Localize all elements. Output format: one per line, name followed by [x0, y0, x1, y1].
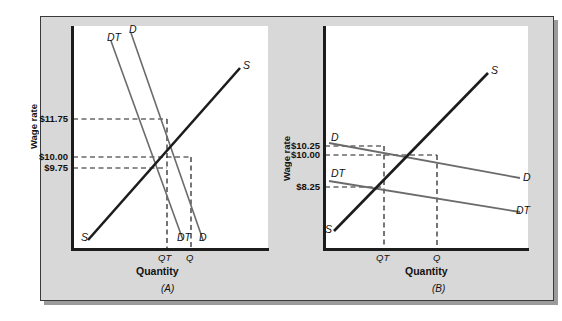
figure-container: Wage rate $11.75 $10.00 $9.75 D DT S S D… — [0, 0, 562, 321]
panel-b-x-axis-label: Quantity — [405, 265, 448, 277]
panel-b-guide-lines — [325, 146, 437, 249]
panel-b-dt-left-label: DT — [331, 167, 345, 179]
panel-b-xtick-qt: QT — [376, 252, 389, 263]
panel-b-s-end-label: S — [491, 64, 498, 76]
panel-b-caption: (B) — [432, 283, 445, 294]
panel-b-xtick-q: Q — [433, 252, 440, 263]
panel-b-ytick-1000: $10.00 — [272, 149, 320, 160]
panel-b-s-curve — [334, 73, 488, 231]
panel-b-ytick-825: $8.25 — [272, 181, 320, 192]
panel-b-s-start-label: S — [325, 223, 332, 235]
panel-b-dt-right-label: DT — [516, 204, 530, 216]
panel-b-d-right-label: D — [523, 171, 531, 183]
panel-b-d-left-label: D — [331, 131, 339, 143]
panel-b-d-curve — [329, 143, 520, 178]
